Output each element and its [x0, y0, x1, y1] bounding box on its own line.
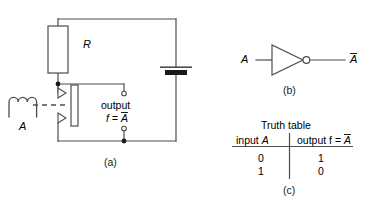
resistor-body	[48, 26, 68, 73]
output-label: output	[101, 100, 130, 111]
resistor-label: R	[83, 39, 91, 50]
truth-table-header-output-var: A	[344, 135, 351, 146]
panel-a-caption: (a)	[104, 157, 117, 168]
truth-table-title: Truth table	[261, 120, 311, 131]
output-terminal-lower	[122, 126, 127, 131]
gate-input-label: A	[241, 54, 248, 65]
reed-switch-armature	[71, 85, 78, 126]
truth-table-header-input-var: A	[262, 134, 269, 146]
panel-a-circuit-svg	[0, 0, 373, 218]
gate-output-label: A	[350, 54, 357, 65]
gate-output-var: A	[350, 54, 357, 65]
panel-b-caption: (b)	[283, 85, 296, 96]
relay-coil-label: A	[19, 121, 26, 132]
relay-coil-A	[9, 97, 37, 117]
inverter-not-gate	[272, 45, 303, 75]
panel-c-caption: (c)	[283, 185, 295, 196]
output-expression: f = A	[106, 113, 128, 124]
truth-table-header-input: input A	[236, 135, 269, 146]
output-expr-prefix: f =	[106, 112, 121, 124]
wire-junction-upper	[56, 82, 61, 87]
figure-not-gate: R A output f = A (a) A A (b) Truth table…	[0, 0, 373, 218]
battery-plate-short	[165, 70, 187, 75]
truth-table-cell-output-0: 1	[318, 153, 324, 164]
truth-table-cell-input-0: 0	[258, 153, 264, 164]
battery-plate-long	[160, 66, 192, 68]
relay-contact-upper	[58, 88, 66, 98]
output-expr-var: A	[121, 113, 128, 124]
truth-table-cell-input-1: 1	[258, 166, 264, 177]
truth-table-header-output-prefix: output f =	[297, 134, 344, 146]
relay-contact-lower	[58, 113, 66, 123]
truth-table-cell-output-1: 0	[318, 166, 324, 177]
inversion-bubble	[303, 57, 310, 64]
wire-junction-lower	[122, 139, 127, 144]
truth-table-header-output: output f = A	[297, 135, 351, 146]
truth-table-header-input-prefix: input	[236, 134, 262, 146]
output-terminal-upper	[122, 91, 127, 96]
battery-cell	[160, 66, 192, 75]
